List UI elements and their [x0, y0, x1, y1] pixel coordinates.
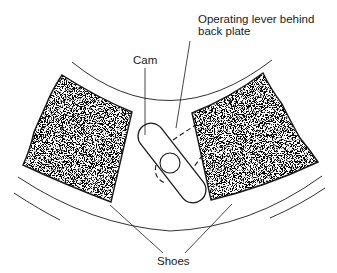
leader-line-shoe-left: [110, 205, 163, 253]
brake-diagram: [0, 0, 337, 273]
operating-lever-label-line2: back plate: [198, 25, 337, 37]
operating-lever-label: Operating lever behind back plate: [198, 13, 337, 37]
leader-line-shoe-right: [185, 204, 232, 253]
operating-lever-label-line1: Operating lever behind: [198, 13, 337, 25]
shoes-label: Shoes: [157, 255, 190, 267]
lower-inner-arc-left: [14, 193, 60, 220]
cam-label: Cam: [133, 54, 157, 66]
left-shoe: [0, 60, 150, 220]
leader-line-lever: [176, 41, 190, 128]
